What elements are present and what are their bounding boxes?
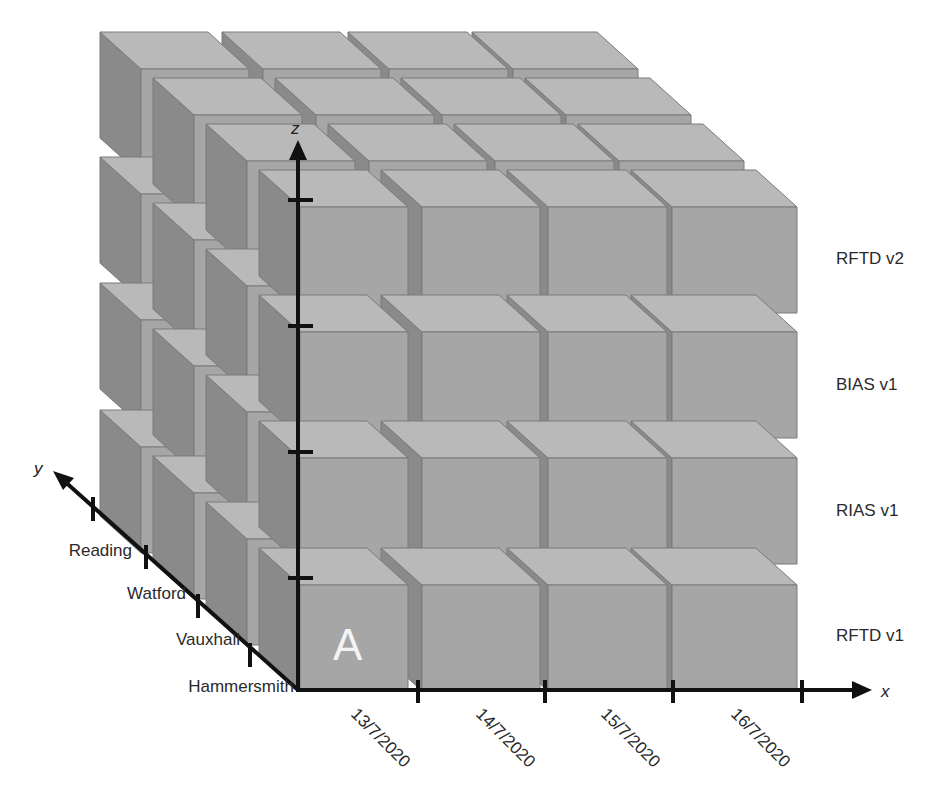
x-axis-tick-label: 15/7/2020 (597, 704, 664, 771)
cube-cell (259, 295, 408, 438)
y-axis-tick-label: Reading (69, 541, 132, 560)
x-axis-tick-label: 14/7/2020 (472, 704, 539, 771)
y-axis-tick-label: Watford (127, 584, 186, 603)
x-axis-arrow-icon (852, 681, 872, 699)
cube-cell (259, 170, 408, 313)
data-cube-diagram: z x y 13/7/202014/7/202015/7/202016/7/20… (0, 0, 925, 807)
cube-canvas: z x y 13/7/202014/7/202015/7/202016/7/20… (0, 0, 925, 807)
x-axis-tick-label: 13/7/2020 (347, 704, 414, 771)
y-axis-name: y (33, 459, 44, 478)
z-axis-tick-label: BIAS v1 (836, 375, 897, 394)
y-axis-tick-label: Vauxhall (176, 630, 240, 649)
x-axis-name: x (880, 682, 890, 701)
z-axis-tick-label: RFTD v1 (836, 626, 904, 645)
y-axis-tick-label: Hammersmith (188, 677, 294, 696)
cube-grid (100, 32, 797, 691)
x-axis-tick-label: 16/7/2020 (727, 704, 794, 771)
z-axis-name: z (290, 119, 300, 138)
z-axis-tick-label: RFTD v2 (836, 249, 904, 268)
z-axis-tick-label: RIAS v1 (836, 501, 898, 520)
highlighted-cell-label: A (333, 620, 363, 669)
cube-cell (259, 421, 408, 564)
